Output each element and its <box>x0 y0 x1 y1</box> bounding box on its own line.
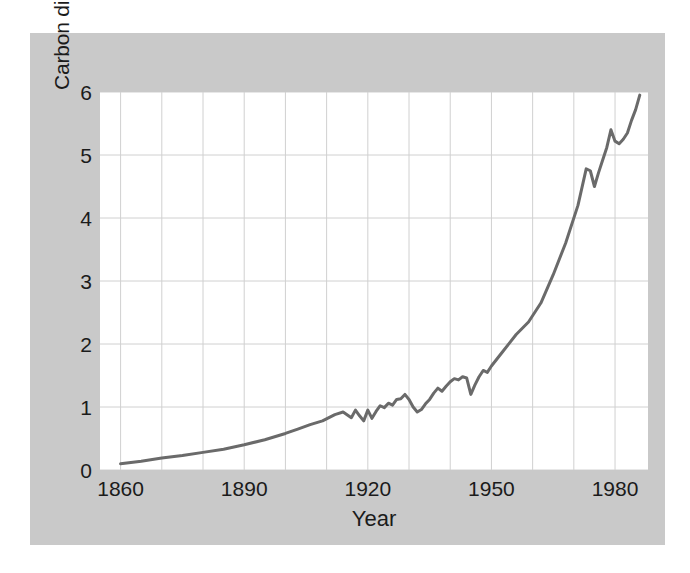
plot-area <box>100 92 648 470</box>
x-tick-label: 1950 <box>451 478 531 499</box>
y-axis-label: Carbon dioxide emissions (billions of to… <box>48 0 76 90</box>
y-tick-label: 2 <box>66 334 92 355</box>
x-tick-label: 1890 <box>204 478 284 499</box>
chart-canvas <box>100 92 648 470</box>
figure: Carbon dioxide emissions (billions of to… <box>0 0 690 573</box>
y-tick-label: 4 <box>66 208 92 229</box>
y-tick-label: 3 <box>66 271 92 292</box>
x-tick-label: 1920 <box>328 478 408 499</box>
x-tick-label: 1980 <box>575 478 655 499</box>
y-tick-label: 1 <box>66 397 92 418</box>
x-tick-label: 1860 <box>81 478 161 499</box>
x-axis-label: Year <box>100 506 648 532</box>
y-tick-label: 5 <box>66 145 92 166</box>
y-tick-label: 6 <box>66 82 92 103</box>
y-axis-label-text: Carbon dioxide emissions (billions of to… <box>48 0 76 90</box>
